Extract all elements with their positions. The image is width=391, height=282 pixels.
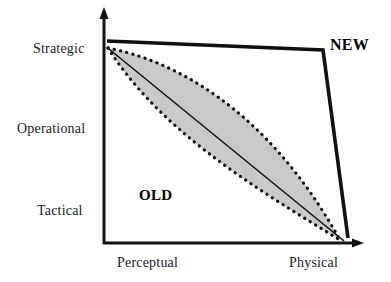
diagram-canvas: Strategic Operational Tactical Perceptua… — [0, 0, 391, 282]
x-axis-label-perceptual: Perceptual — [117, 255, 178, 271]
old-centre-line — [109, 49, 344, 241]
y-axis-label-operational: Operational — [17, 121, 85, 137]
y-axis-arrow-icon — [100, 7, 109, 19]
x-axis-arrow-icon — [352, 239, 364, 248]
y-axis-label-strategic: Strategic — [33, 41, 85, 57]
new-curve-label: NEW — [330, 36, 369, 54]
x-axis-label-physical: Physical — [289, 255, 338, 271]
y-axis-label-tactical: Tactical — [37, 203, 83, 219]
old-region-label: OLD — [139, 187, 172, 204]
